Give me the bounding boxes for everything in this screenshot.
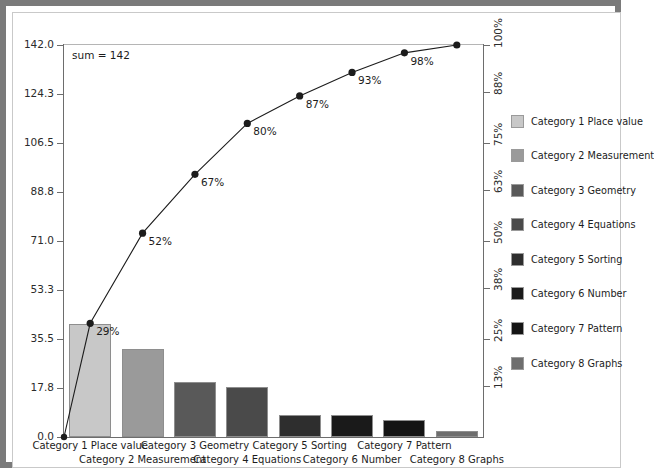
legend-label: Category 3 Geometry xyxy=(531,185,636,196)
y-tick-right xyxy=(484,190,490,191)
y-tick-left xyxy=(57,388,63,389)
legend-swatch xyxy=(511,184,524,197)
y-tick-right xyxy=(484,143,490,144)
legend-label: Category 7 Pattern xyxy=(531,323,622,334)
cumulative-marker xyxy=(401,49,408,56)
y-tick-left xyxy=(57,339,63,340)
bar xyxy=(122,349,164,437)
y-tick-label-right: 13% xyxy=(492,366,504,389)
cumulative-marker xyxy=(139,230,146,237)
cumulative-percent-label: 67% xyxy=(201,176,224,188)
y-axis-left-line xyxy=(63,44,64,438)
y-tick-left xyxy=(57,192,63,193)
chart-inner-panel: sum = 142 0.017.835.553.371.088.8106.512… xyxy=(12,12,621,468)
y-tick-label-left: 71.0 xyxy=(13,235,54,245)
plot-top-border xyxy=(64,44,484,45)
bar xyxy=(69,324,111,437)
legend-label: Category 4 Equations xyxy=(531,219,636,230)
y-tick-label-left: 17.8 xyxy=(13,382,54,392)
y-tick-right xyxy=(484,92,490,93)
legend-item: Category 7 Pattern xyxy=(511,322,629,336)
y-tick-right xyxy=(484,45,490,46)
cumulative-marker xyxy=(296,92,303,99)
chart-legend: Category 1 Place valueCategory 2 Measure… xyxy=(511,114,629,391)
y-tick-left xyxy=(57,241,63,242)
y-tick-label-right: 63% xyxy=(492,170,504,193)
sum-annotation: sum = 142 xyxy=(72,49,130,61)
cumulative-percent-label: 29% xyxy=(96,325,119,337)
legend-swatch xyxy=(511,218,524,231)
x-axis-line xyxy=(63,437,484,438)
y-tick-label-right: 25% xyxy=(492,319,504,342)
legend-label: Category 8 Graphs xyxy=(531,358,622,369)
legend-swatch xyxy=(511,322,524,335)
legend-label: Category 1 Place value xyxy=(531,116,643,127)
legend-item: Category 6 Number xyxy=(511,287,629,301)
legend-item: Category 1 Place value xyxy=(511,114,629,128)
legend-label: Category 5 Sorting xyxy=(531,254,622,265)
y-tick-left xyxy=(57,290,63,291)
cumulative-percent-label: 93% xyxy=(358,74,381,86)
legend-item: Category 8 Graphs xyxy=(511,356,629,370)
bar xyxy=(331,415,373,437)
bar xyxy=(174,382,216,437)
cumulative-marker xyxy=(453,41,460,48)
y-tick-label-right: 100% xyxy=(492,18,504,48)
cumulative-marker xyxy=(244,120,251,127)
x-axis-label: Category 8 Graphs xyxy=(377,454,537,465)
y-tick-right xyxy=(484,339,490,340)
legend-swatch xyxy=(511,357,524,370)
bar xyxy=(279,415,321,437)
legend-swatch xyxy=(511,115,524,128)
cumulative-marker xyxy=(348,69,355,76)
legend-swatch xyxy=(511,287,524,300)
legend-item: Category 2 Measurement xyxy=(511,149,629,163)
y-tick-left xyxy=(57,143,63,144)
bar xyxy=(226,387,268,437)
y-tick-left xyxy=(57,94,63,95)
y-tick-label-left: 124.3 xyxy=(13,88,54,98)
cumulative-percent-label: 52% xyxy=(149,235,172,247)
y-tick-right xyxy=(484,288,490,289)
legend-label: Category 6 Number xyxy=(531,288,627,299)
legend-item: Category 5 Sorting xyxy=(511,252,629,266)
legend-swatch xyxy=(511,253,524,266)
y-tick-right xyxy=(484,241,490,242)
y-tick-label-right: 88% xyxy=(492,72,504,95)
cumulative-percent-label: 98% xyxy=(410,55,433,67)
y-tick-right xyxy=(484,386,490,387)
cumulative-marker xyxy=(191,171,198,178)
y-tick-left xyxy=(57,437,63,438)
y-tick-label-left: 88.8 xyxy=(13,186,54,196)
bar xyxy=(383,420,425,437)
cumulative-percent-label: 87% xyxy=(306,98,329,110)
y-tick-label-left: 106.5 xyxy=(13,137,54,147)
y-tick-left xyxy=(57,45,63,46)
legend-label: Category 2 Measurement xyxy=(531,150,654,161)
bar xyxy=(436,431,478,437)
y-tick-label-right: 75% xyxy=(492,123,504,146)
y-tick-label-right: 50% xyxy=(492,221,504,244)
legend-item: Category 4 Equations xyxy=(511,218,629,232)
legend-swatch xyxy=(511,149,524,162)
y-tick-label-left: 142.0 xyxy=(13,39,54,49)
x-axis-label: Category 7 Pattern xyxy=(324,440,484,451)
legend-item: Category 3 Geometry xyxy=(511,183,629,197)
y-tick-label-right: 38% xyxy=(492,268,504,291)
y-tick-label-left: 35.5 xyxy=(13,333,54,343)
cumulative-percent-label: 80% xyxy=(253,125,276,137)
y-tick-label-left: 53.3 xyxy=(13,284,54,294)
